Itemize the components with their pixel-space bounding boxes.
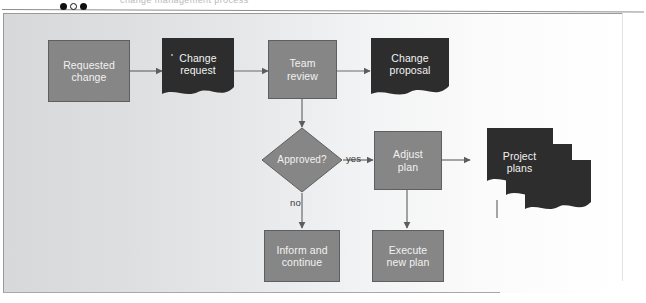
node-label-approved: Approved? bbox=[261, 127, 343, 193]
node-label-execute-new-plan: Execute new plan bbox=[387, 244, 430, 269]
node-label-project-plans: Project plans bbox=[468, 128, 593, 220]
node-label-team-review: Team review bbox=[287, 57, 318, 82]
scanned-page: change management process bbox=[0, 0, 646, 303]
node-execute-new-plan[interactable]: Execute new plan bbox=[372, 230, 444, 282]
edge-label-no: no bbox=[290, 197, 301, 208]
node-label-inform-and-continue: Inform and continue bbox=[276, 244, 327, 269]
edge-label-yes: yes bbox=[346, 153, 361, 164]
node-label-change-request: Change request bbox=[162, 38, 234, 102]
node-inform-and-continue[interactable]: Inform and continue bbox=[264, 230, 340, 282]
node-label-change-proposal: Change proposal bbox=[371, 38, 449, 102]
node-change-proposal[interactable]: Change proposal bbox=[371, 38, 449, 102]
node-approved-decision[interactable]: Approved? bbox=[261, 127, 343, 193]
node-change-request[interactable]: Change request bbox=[162, 38, 234, 102]
flowchart: Requested change Change request Team rev… bbox=[0, 0, 646, 303]
node-adjust-plan[interactable]: Adjust plan bbox=[374, 131, 442, 190]
node-requested-change[interactable]: Requested change bbox=[48, 40, 130, 102]
node-project-plans[interactable]: Project plans bbox=[468, 128, 593, 220]
node-team-review[interactable]: Team review bbox=[268, 40, 337, 99]
node-label-requested-change: Requested change bbox=[63, 59, 115, 84]
node-label-adjust-plan: Adjust plan bbox=[393, 148, 423, 173]
